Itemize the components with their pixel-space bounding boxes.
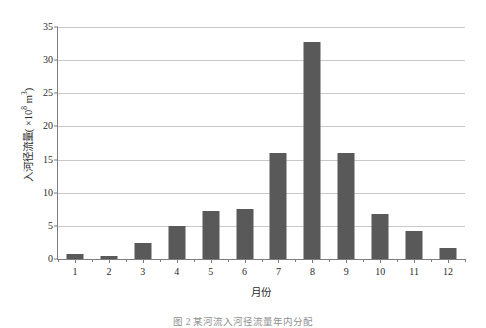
x-minor-tick-mark xyxy=(160,259,161,262)
x-minor-tick-mark xyxy=(92,259,93,262)
x-tick-label: 7 xyxy=(276,266,281,277)
y-axis-title-exponent: 8 xyxy=(20,106,29,110)
x-tick-mark xyxy=(211,259,212,263)
bars-layer xyxy=(58,27,465,259)
x-tick-label: 3 xyxy=(140,266,145,277)
bar[interactable] xyxy=(372,214,389,259)
x-tick-label: 10 xyxy=(375,266,385,277)
x-tick-label: 4 xyxy=(174,266,179,277)
y-tick-label: 5 xyxy=(33,221,53,231)
x-tick-mark xyxy=(177,259,178,263)
x-minor-tick-mark xyxy=(126,259,127,262)
x-minor-tick-mark xyxy=(431,259,432,262)
bar-slot xyxy=(329,27,363,259)
y-axis-title-close: ) xyxy=(23,88,34,92)
bar[interactable] xyxy=(134,243,151,259)
x-minor-tick-mark xyxy=(329,259,330,262)
y-axis-title-unit-exponent: 3 xyxy=(20,91,29,95)
x-tick-label: 8 xyxy=(310,266,315,277)
x-minor-tick-mark xyxy=(194,259,195,262)
bar[interactable] xyxy=(304,42,321,259)
x-minor-tick-mark xyxy=(228,259,229,262)
x-minor-tick-mark xyxy=(363,259,364,262)
x-tick-mark xyxy=(109,259,110,263)
bar-slot xyxy=(126,27,160,259)
bar-slot xyxy=(194,27,228,259)
x-tick-mark xyxy=(245,259,246,263)
bar[interactable] xyxy=(236,209,253,259)
x-tick-mark xyxy=(312,259,313,263)
x-tick-mark xyxy=(448,259,449,263)
x-axis-title: 月份 xyxy=(57,287,465,299)
y-tick-label: 35 xyxy=(33,22,53,32)
x-tick-mark xyxy=(278,259,279,263)
y-tick-label: 10 xyxy=(33,188,53,198)
x-tick-mark xyxy=(414,259,415,263)
x-tick-label: 1 xyxy=(72,266,77,277)
bar-slot xyxy=(295,27,329,259)
x-tick-label: 6 xyxy=(242,266,247,277)
bar-slot xyxy=(228,27,262,259)
bar-slot xyxy=(262,27,296,259)
figure-caption: 图 2 某河流入河径流量年内分配 xyxy=(0,316,486,328)
x-minor-tick-mark xyxy=(465,259,466,262)
y-tick-label: 30 xyxy=(33,55,53,65)
x-tick-label: 12 xyxy=(443,266,453,277)
y-tick-label: 25 xyxy=(33,88,53,98)
y-axis-title: 入河径流量( ×108 m3) xyxy=(18,60,32,210)
y-axis-title-unit: m xyxy=(23,95,34,106)
x-minor-tick-mark xyxy=(397,259,398,262)
bar[interactable] xyxy=(202,211,219,259)
y-axis-title-text: 入河径流量( ×10 xyxy=(23,110,34,183)
bar[interactable] xyxy=(338,153,355,259)
x-tick-mark xyxy=(346,259,347,263)
bar-slot xyxy=(160,27,194,259)
x-tick-label: 2 xyxy=(106,266,111,277)
bar-slot xyxy=(431,27,465,259)
y-tick-label: 20 xyxy=(33,121,53,131)
x-tick-mark xyxy=(143,259,144,263)
y-tick-label: 0 xyxy=(33,254,53,264)
x-minor-tick-mark xyxy=(58,259,59,262)
x-tick-label: 11 xyxy=(409,266,419,277)
x-minor-tick-mark xyxy=(295,259,296,262)
bar[interactable] xyxy=(406,231,423,259)
x-tick-label: 5 xyxy=(208,266,213,277)
bar-slot xyxy=(397,27,431,259)
bar[interactable] xyxy=(440,248,457,259)
x-minor-tick-mark xyxy=(262,259,263,262)
x-tick-mark xyxy=(380,259,381,263)
bar[interactable] xyxy=(270,153,287,259)
bar[interactable] xyxy=(168,226,185,259)
bar-slot xyxy=(363,27,397,259)
bar-slot xyxy=(92,27,126,259)
bar-slot xyxy=(58,27,92,259)
x-tick-label: 9 xyxy=(344,266,349,277)
x-tick-mark xyxy=(75,259,76,263)
y-tick-label: 15 xyxy=(33,155,53,165)
plot-area: 05101520253035 123456789101112 xyxy=(57,27,465,260)
